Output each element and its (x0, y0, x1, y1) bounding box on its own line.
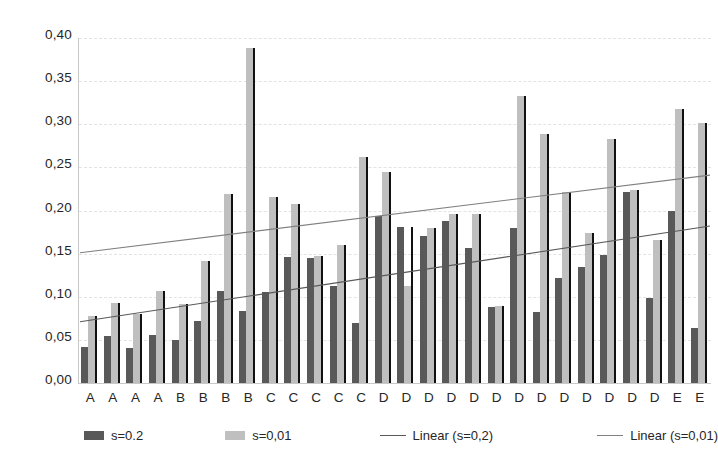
bar-series-1[interactable] (307, 258, 314, 383)
bar-series-1[interactable] (465, 248, 472, 383)
bar-series-1[interactable] (600, 255, 607, 384)
bar-group[interactable] (126, 38, 140, 383)
bar-series-1[interactable] (81, 347, 88, 383)
bar-series-2[interactable] (698, 123, 705, 383)
x-axis-tick-label: E (673, 390, 682, 405)
bar-series-2[interactable] (404, 286, 411, 383)
bar-series-2[interactable] (337, 245, 344, 383)
bar-series-1[interactable] (352, 323, 359, 383)
bar-series-1[interactable] (172, 340, 179, 383)
bar-series-2[interactable] (472, 214, 479, 383)
bar-series-2[interactable] (359, 157, 366, 383)
bar-series-1[interactable] (420, 236, 427, 383)
legend-item[interactable]: Linear (s=0,2) (380, 428, 494, 443)
category-separator (547, 134, 549, 383)
legend-line-swatch (597, 435, 623, 436)
x-axis-tick-label: C (334, 390, 344, 405)
bar-group[interactable] (104, 38, 118, 383)
legend-line-swatch (380, 435, 406, 436)
bar-series-2[interactable] (562, 192, 569, 383)
bar-series-2[interactable] (675, 109, 682, 383)
bar-series-2[interactable] (201, 261, 208, 383)
bar-series-1[interactable] (555, 278, 562, 383)
bar-group[interactable] (578, 38, 592, 383)
bar-series-2[interactable] (517, 96, 524, 383)
bar-series-2[interactable] (111, 303, 118, 383)
bar-group[interactable] (284, 38, 298, 383)
bar-group[interactable] (646, 38, 660, 383)
bar-series-1[interactable] (623, 192, 630, 383)
bar-group[interactable] (262, 38, 276, 383)
bar-series-2[interactable] (88, 316, 95, 383)
bar-group[interactable] (510, 38, 524, 383)
bar-group[interactable] (375, 38, 389, 383)
x-axis-tick-label: C (311, 390, 321, 405)
bar-series-1[interactable] (578, 267, 585, 383)
bar-group[interactable] (668, 38, 682, 383)
bar-series-1[interactable] (375, 216, 382, 383)
bar-series-1[interactable] (397, 227, 404, 383)
bar-series-2[interactable] (156, 291, 163, 383)
bar-series-1[interactable] (691, 328, 698, 383)
bar-series-2[interactable] (630, 190, 637, 383)
bar-series-2[interactable] (246, 48, 253, 383)
bar-series-1[interactable] (284, 257, 291, 383)
bar-group[interactable] (217, 38, 231, 383)
bar-series-1[interactable] (239, 311, 246, 383)
x-axis-tick-label: E (695, 390, 704, 405)
bar-series-2[interactable] (449, 214, 456, 383)
bar-group[interactable] (488, 38, 502, 383)
bar-group[interactable] (307, 38, 321, 383)
bar-group[interactable] (465, 38, 479, 383)
bar-group[interactable] (172, 38, 186, 383)
legend-label: s=0,01 (252, 428, 291, 443)
legend-item[interactable]: Linear (s=0,01) (597, 428, 718, 443)
bar-series-2[interactable] (314, 256, 321, 383)
bar-group[interactable] (397, 38, 411, 383)
bar-group[interactable] (352, 38, 366, 383)
bar-series-2[interactable] (607, 139, 614, 383)
bar-series-1[interactable] (126, 348, 133, 383)
bar-group[interactable] (149, 38, 163, 383)
bar-series-1[interactable] (442, 221, 449, 383)
bar-series-2[interactable] (269, 197, 276, 383)
bar-group[interactable] (691, 38, 705, 383)
legend-item[interactable]: s=0.2 (84, 428, 143, 443)
bar-series-2[interactable] (133, 314, 140, 383)
bar-series-2[interactable] (585, 233, 592, 383)
bar-group[interactable] (239, 38, 253, 383)
bar-series-2[interactable] (224, 194, 231, 383)
bar-group[interactable] (600, 38, 614, 383)
bar-series-1[interactable] (646, 298, 653, 383)
bar-series-2[interactable] (382, 172, 389, 383)
bar-series-1[interactable] (104, 336, 111, 383)
category-separator (614, 139, 616, 383)
x-axis-tick-label: C (266, 390, 276, 405)
bar-series-1[interactable] (488, 307, 495, 383)
bar-group[interactable] (330, 38, 344, 383)
bar-series-2[interactable] (427, 228, 434, 383)
legend-item[interactable]: s=0,01 (225, 428, 291, 443)
bar-series-2[interactable] (540, 134, 547, 383)
bar-series-1[interactable] (533, 312, 540, 383)
bar-series-1[interactable] (194, 321, 201, 383)
bar-group[interactable] (623, 38, 637, 383)
bar-group[interactable] (555, 38, 569, 383)
bar-series-2[interactable] (495, 306, 502, 383)
bar-series-1[interactable] (149, 335, 156, 383)
bar-series-1[interactable] (217, 291, 224, 383)
bar-series-2[interactable] (653, 240, 660, 383)
category-separator (231, 194, 233, 383)
bar-series-2[interactable] (179, 304, 186, 383)
bar-group[interactable] (442, 38, 456, 383)
bar-group[interactable] (420, 38, 434, 383)
bar-group[interactable] (533, 38, 547, 383)
bar-group[interactable] (194, 38, 208, 383)
bar-series-2[interactable] (291, 204, 298, 383)
y-axis-tick-label: 0,20 (45, 199, 72, 214)
bar-series-1[interactable] (510, 228, 517, 383)
bar-series-1[interactable] (668, 211, 675, 384)
bar-group[interactable] (81, 38, 95, 383)
bar-series-1[interactable] (330, 286, 337, 383)
bar-series-1[interactable] (262, 292, 269, 383)
